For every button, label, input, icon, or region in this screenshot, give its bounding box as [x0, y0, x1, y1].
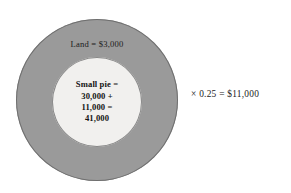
outer-circle-label: Land = $3,000: [16, 39, 178, 50]
inner-circle-line-2: 30,000 +: [81, 91, 112, 102]
inner-circle-line-1: Small pie =: [76, 79, 118, 90]
inner-circle-line-4: 41,000: [85, 113, 109, 124]
side-equation: × 0.25 = $11,000: [191, 88, 259, 101]
diagram-canvas: Land = $3,000 Small pie = 30,000 + 11,00…: [0, 0, 291, 193]
inner-circle-line-3: 11,000 =: [81, 102, 112, 113]
inner-circle-small-pie: Small pie = 30,000 + 11,000 = 41,000: [52, 57, 142, 147]
